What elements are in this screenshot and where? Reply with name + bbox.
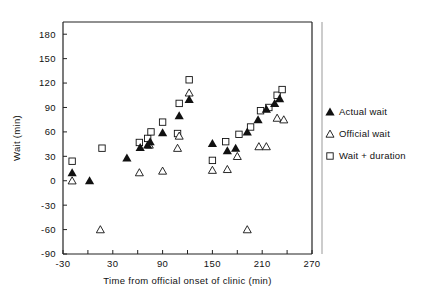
y-tick-label: 90 bbox=[45, 102, 56, 113]
x-tick-label: 210 bbox=[254, 258, 271, 269]
marker-official-wait bbox=[223, 165, 231, 172]
marker-wait-plus-duration bbox=[236, 131, 242, 137]
marker-wait-plus-duration bbox=[159, 119, 165, 125]
marker-actual-wait bbox=[85, 176, 94, 184]
marker-actual-wait bbox=[158, 128, 167, 136]
legend-label-actual-wait: Actual wait bbox=[339, 106, 387, 117]
legend-label-wait-duration: Wait + duration bbox=[339, 150, 406, 161]
x-tick-label: 90 bbox=[157, 258, 168, 269]
marker-actual-wait bbox=[208, 139, 217, 147]
marker-wait-plus-duration bbox=[209, 157, 215, 163]
marker-wait-plus-duration bbox=[257, 108, 263, 114]
marker-official-wait bbox=[255, 143, 263, 150]
scatter-plot-figure: -303090150210270-90-60-30030609012015018… bbox=[0, 0, 435, 297]
marker-wait-plus-duration bbox=[186, 77, 192, 83]
marker-actual-wait bbox=[122, 154, 131, 162]
marker-actual-wait bbox=[231, 144, 240, 152]
y-tick-label: 120 bbox=[39, 77, 56, 88]
y-tick-label: -60 bbox=[41, 224, 56, 235]
marker-actual-wait bbox=[253, 115, 262, 123]
marker-official-wait bbox=[233, 152, 241, 159]
y-tick-label: -90 bbox=[41, 248, 56, 259]
marker-official-wait bbox=[68, 177, 76, 184]
y-tick-label: 30 bbox=[45, 151, 56, 162]
marker-official-wait bbox=[280, 116, 288, 123]
marker-official-wait-legend bbox=[326, 130, 334, 137]
marker-official-wait bbox=[96, 226, 104, 233]
x-tick-label: 270 bbox=[303, 258, 320, 269]
x-axis-title: Time from official onset of clinic (min) bbox=[103, 275, 271, 286]
marker-official-wait bbox=[159, 167, 167, 174]
marker-official-wait bbox=[208, 166, 216, 173]
y-tick-label: 150 bbox=[39, 53, 56, 64]
y-tick-label: 60 bbox=[45, 126, 56, 137]
marker-official-wait bbox=[174, 144, 182, 151]
marker-wait-plus-duration bbox=[69, 158, 75, 164]
marker-wait-plus-duration bbox=[247, 124, 253, 130]
marker-actual-wait bbox=[175, 111, 184, 119]
marker-wait-plus-duration bbox=[279, 86, 285, 92]
y-axis-title: Wait (min) bbox=[11, 115, 22, 161]
y-tick-label: 180 bbox=[39, 29, 56, 40]
y-tick-label: 0 bbox=[50, 175, 56, 186]
marker-wait-plus-duration bbox=[99, 145, 105, 151]
marker-wait-plus-duration bbox=[176, 100, 182, 106]
x-tick-label: 150 bbox=[204, 258, 221, 269]
marker-wait-plus-duration-legend bbox=[327, 153, 333, 159]
marker-actual-wait-legend bbox=[325, 108, 334, 116]
marker-wait-plus-duration bbox=[148, 129, 154, 135]
marker-official-wait bbox=[135, 169, 143, 176]
marker-official-wait bbox=[243, 226, 251, 233]
marker-actual-wait bbox=[223, 146, 232, 154]
marker-official-wait bbox=[273, 114, 281, 121]
x-tick-label: -30 bbox=[56, 258, 71, 269]
marker-wait-plus-duration bbox=[222, 138, 228, 144]
plot-canvas: -303090150210270-90-60-30030609012015018… bbox=[0, 0, 435, 297]
marker-official-wait bbox=[262, 143, 270, 150]
legend-label-official-wait: Official wait bbox=[339, 128, 390, 139]
y-tick-label: -30 bbox=[41, 200, 56, 211]
marker-actual-wait bbox=[68, 168, 77, 176]
x-tick-label: 30 bbox=[107, 258, 118, 269]
